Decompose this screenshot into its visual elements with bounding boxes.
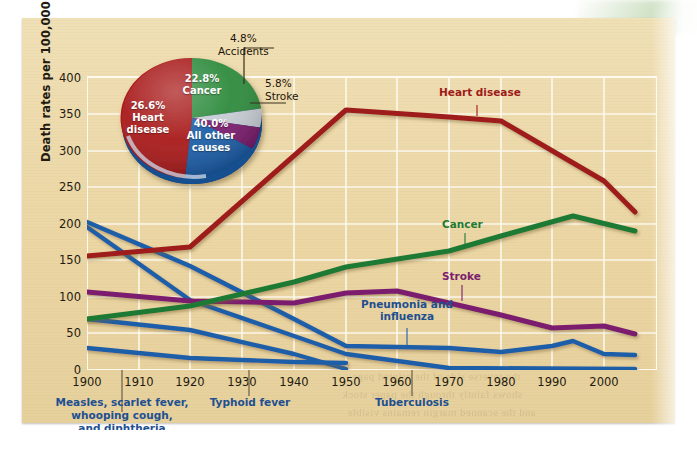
pie-callout-stroke: 5.8% Stroke	[265, 77, 298, 102]
y-tick-100: 100	[59, 290, 81, 304]
pie-label-other-name2: causes	[192, 142, 230, 153]
pie-callout-stroke-name: Stroke	[265, 90, 298, 102]
pie-callout-accidents-name: Accidents	[218, 45, 269, 57]
annotation-cancer: Cancer	[442, 218, 483, 230]
pie-label-cancer-name: Cancer	[183, 85, 222, 96]
pie-callout-stroke-pct: 5.8%	[265, 77, 292, 89]
annotation-pneumonia: Pneumonia and influenza	[345, 298, 469, 322]
x-tick-1940: 1940	[279, 375, 308, 389]
annotation-pneumonia-line2: influenza	[380, 310, 434, 322]
callout-measles-line2: whooping cough,	[71, 409, 172, 421]
series-typhoid	[87, 348, 346, 363]
x-tick-1950: 1950	[331, 375, 360, 389]
callout-typhoid: Typhoid fever	[190, 396, 310, 409]
y-tick-350: 350	[59, 107, 81, 121]
x-tick-1980: 1980	[486, 375, 515, 389]
x-tick-1920: 1920	[175, 375, 204, 389]
figure-root: the reverse side of the printed page sho…	[0, 0, 697, 452]
pie-label-all-other: 40.0% All other causes	[176, 118, 246, 153]
callout-measles-line1: Measles, scarlet fever,	[56, 396, 189, 408]
pie-label-cancer: 22.8% Cancer	[166, 73, 238, 97]
y-tick-400: 400	[59, 71, 81, 85]
x-tick-1900: 1900	[72, 375, 101, 389]
pie-label-heart-disease: 26.6% Heart disease	[116, 100, 180, 135]
x-tick-1910: 1910	[124, 375, 153, 389]
x-tick-1970: 1970	[434, 375, 463, 389]
annotation-stroke: Stroke	[442, 270, 481, 282]
callout-tuberculosis: Tuberculosis	[359, 396, 465, 409]
x-tick-1930: 1930	[227, 375, 256, 389]
pie-label-heart-name2: disease	[127, 124, 170, 135]
pie-label-cancer-pct: 22.8%	[185, 73, 220, 84]
y-tick-250: 250	[59, 180, 81, 194]
y-tick-50: 50	[66, 326, 81, 340]
y-axis-label: Death rates per 100,000 population	[39, 0, 53, 162]
pie-label-heart-name1: Heart	[132, 112, 164, 123]
callout-measles: Measles, scarlet fever, whooping cough, …	[42, 396, 202, 435]
pie-callout-accidents-pct: 4.8%	[230, 32, 257, 44]
pie-callout-accidents: 4.8% Accidents	[218, 32, 269, 57]
callout-measles-line3: and diphtheria	[78, 422, 165, 434]
x-tick-1960: 1960	[382, 375, 411, 389]
pie-chart: 22.8% Cancer 26.6% Heart disease 40.0% A…	[110, 40, 275, 200]
y-tick-150: 150	[59, 253, 81, 267]
annotation-pneumonia-line1: Pneumonia and	[361, 298, 453, 310]
y-tick-300: 300	[59, 144, 81, 158]
annotation-heart-disease: Heart disease	[439, 86, 521, 98]
chart-panel: the reverse side of the printed page sho…	[22, 18, 675, 423]
x-tick-1990: 1990	[537, 375, 566, 389]
x-tick-2000: 2000	[589, 375, 618, 389]
pie-label-heart-pct: 26.6%	[131, 100, 166, 111]
pie-label-other-name1: All other	[187, 130, 236, 141]
y-tick-200: 200	[59, 217, 81, 231]
pie-label-other-pct: 40.0%	[194, 118, 229, 129]
